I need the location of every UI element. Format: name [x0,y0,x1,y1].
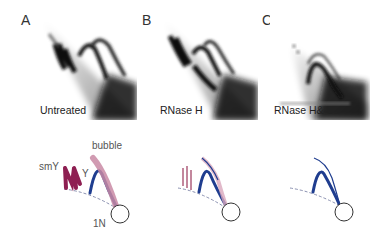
label-bubble: bubble [92,140,122,151]
panel-label-rnase-h: RNase H [160,104,203,116]
panel-letter-a: A [21,12,30,28]
panel-label-untreated: Untreated [40,104,86,116]
one-n-spot [111,205,129,223]
label-smy: smY [39,161,59,172]
bubble-arc [93,158,116,206]
panel-label-rnase-h-s1: RNase H& S1 [274,104,339,116]
smy-shape [65,168,80,188]
label-1n: 1N [93,218,106,229]
schematic-rnase-h-s1 [260,132,380,232]
label-y: Y [82,168,89,179]
schematic-rnase-h [140,132,250,232]
panel-letter-b: B [142,12,151,28]
